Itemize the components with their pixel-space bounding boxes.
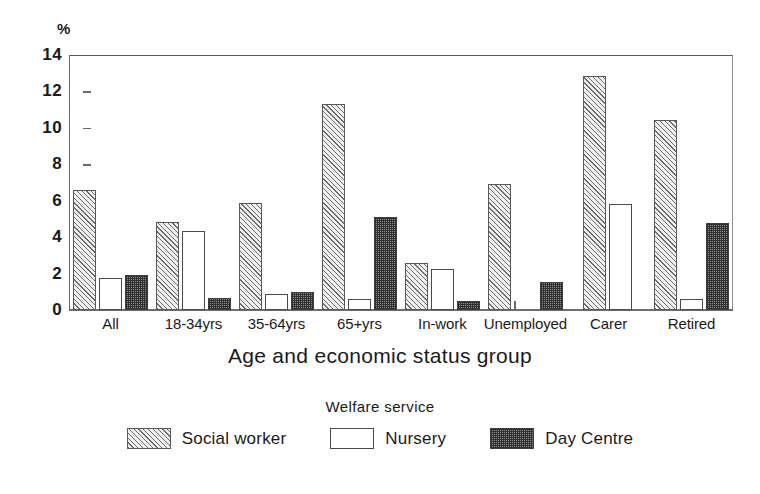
x-tick-label-35-64yrs: 35-64yrs	[235, 315, 318, 339]
legend-label: Nursery	[385, 429, 446, 449]
y-tick-label-10: 10	[20, 118, 62, 138]
bar-nursery	[431, 269, 454, 310]
bar-nursery	[514, 301, 516, 310]
bar-social-worker	[73, 190, 96, 310]
y-tick-label-4: 4	[20, 227, 62, 247]
x-tick-label-18-34yrs: 18-34yrs	[152, 315, 235, 339]
bar-day-centre	[208, 298, 231, 310]
bar-day-centre	[540, 282, 563, 310]
bar-group	[484, 55, 567, 310]
bar-day-centre	[291, 292, 314, 310]
y-tick-label-8: 8	[20, 154, 62, 174]
y-tick-label-2: 2	[20, 264, 62, 284]
bar-day-centre	[374, 217, 397, 310]
x-axis-title: Age and economic status group	[0, 344, 760, 368]
bar-group	[401, 55, 484, 310]
bar-group	[318, 55, 401, 310]
bar-nursery	[99, 278, 122, 310]
stipple-swatch	[490, 428, 534, 449]
bar-social-worker	[583, 76, 606, 310]
bar-group	[650, 55, 733, 310]
bar-day-centre	[457, 301, 480, 310]
y-tick-label-12: 12	[20, 81, 62, 101]
bar-day-centre	[706, 223, 729, 310]
bar-day-centre	[125, 275, 148, 310]
bar-nursery	[182, 231, 205, 310]
bar-nursery	[609, 204, 632, 310]
x-tick-label-unemployed: Unemployed	[484, 315, 567, 339]
bar-nursery	[680, 299, 703, 310]
x-tick-label-65-yrs: 65+yrs	[318, 315, 401, 339]
x-tick-label-all: All	[69, 315, 152, 339]
legend-item-nursery: Nursery	[330, 428, 446, 449]
x-tick-label-in-work: In-work	[401, 315, 484, 339]
y-tick-label-0: 0	[20, 300, 62, 320]
bar-chart-figure: % 02468101214 All18-34yrs35-64yrs65+yrsI…	[0, 0, 760, 494]
y-tick-label-6: 6	[20, 191, 62, 211]
bar-social-worker	[239, 203, 262, 310]
bar-social-worker	[405, 263, 428, 310]
bar-social-worker	[156, 222, 179, 310]
bar-group	[152, 55, 235, 310]
x-axis-category-labels: All18-34yrs35-64yrs65+yrsIn-workUnemploy…	[69, 315, 733, 339]
bar-social-worker	[488, 184, 511, 310]
hatch-swatch	[127, 428, 171, 449]
bar-nursery	[348, 299, 371, 310]
bar-nursery	[265, 294, 288, 310]
bar-group	[235, 55, 318, 310]
y-tick-label-14: 14	[20, 45, 62, 65]
legend-label: Social worker	[182, 429, 287, 449]
x-tick-label-carer: Carer	[567, 315, 650, 339]
bar-groups	[69, 55, 733, 310]
legend-label: Day Centre	[545, 429, 633, 449]
bar-group	[567, 55, 650, 310]
bar-social-worker	[322, 104, 345, 310]
legend: Social workerNurseryDay Centre	[0, 428, 760, 449]
white-swatch	[330, 428, 374, 449]
legend-item-day-centre: Day Centre	[490, 428, 633, 449]
bar-group	[69, 55, 152, 310]
y-axis-ticks: 02468101214	[14, 0, 62, 494]
bar-social-worker	[654, 120, 677, 310]
legend-title: Welfare service	[0, 398, 760, 415]
x-tick-label-retired: Retired	[650, 315, 733, 339]
legend-item-social-worker: Social worker	[127, 428, 287, 449]
